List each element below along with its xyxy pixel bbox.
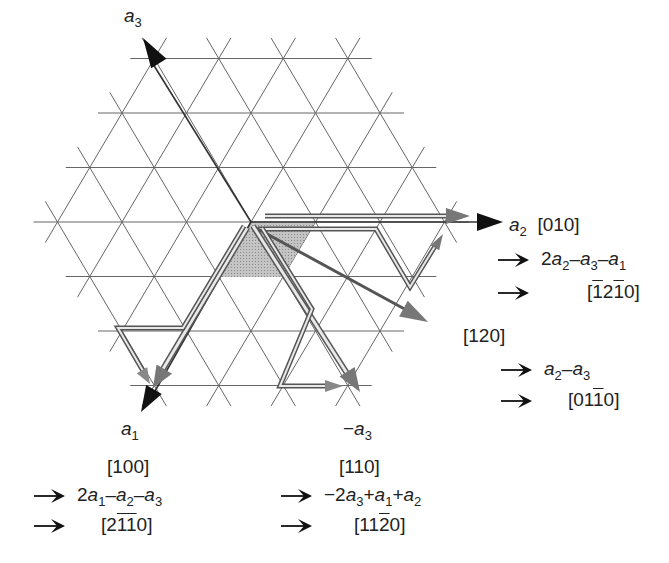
dir120-arrowhead-icon	[399, 301, 428, 322]
a2-expression: 2a2–a3–a1	[497, 248, 626, 270]
neg-a3-axis-label: −a3	[343, 418, 372, 440]
a2-axis-label: a2 [010]	[509, 214, 580, 236]
implies-arrow-icon	[280, 488, 314, 504]
a2-arrowhead-icon	[477, 213, 503, 231]
neg-a3-expression: −2a3+a1+a2	[280, 484, 421, 506]
path-neg2a3-arrowhead-icon	[325, 380, 343, 392]
a2-four-index: [1210]	[497, 281, 640, 303]
a1-index-label: [100]	[107, 456, 149, 478]
dir120-expression: a2–a3	[500, 358, 590, 380]
implies-arrow-icon	[500, 393, 534, 409]
a1-arrowhead-icon	[141, 385, 162, 412]
neg-a3-index-label: [110]	[339, 456, 380, 478]
dir120-index-label: [120]	[463, 325, 505, 347]
a3-axis-label: a3	[124, 5, 142, 27]
path-2a1-a2-a3-arrowhead-icon	[137, 367, 150, 384]
a3-arrowhead-icon	[143, 38, 166, 68]
implies-arrow-icon	[500, 362, 534, 378]
implies-arrow-icon	[497, 252, 531, 268]
a1-axis-label: a1	[121, 418, 139, 440]
path-2a1-a2-a3	[118, 226, 244, 376]
implies-arrow-icon	[33, 518, 67, 534]
implies-arrow-icon	[497, 285, 531, 301]
a1-expression: 2a1–a2–a3	[33, 484, 162, 506]
neg-a3-four-index: [1120]	[280, 514, 405, 536]
implies-arrow-icon	[280, 518, 314, 534]
dir120-four-index: [0110]	[500, 389, 619, 411]
implies-arrow-icon	[33, 488, 67, 504]
a1-four-index: [2110]	[33, 514, 152, 536]
